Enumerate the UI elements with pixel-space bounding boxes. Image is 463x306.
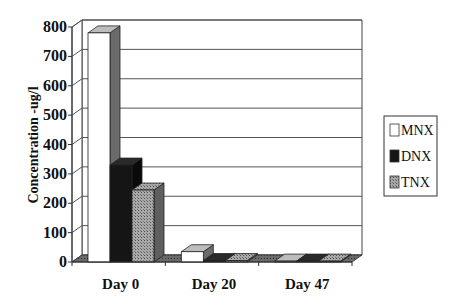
y-tick-label: 200 [43, 194, 67, 211]
y-axis-ticks: 0100200300400500600700800 [43, 18, 72, 270]
bar-front [88, 33, 110, 262]
legend-swatch-tnx [390, 176, 399, 188]
y-tick-label: 300 [43, 165, 67, 182]
bar-chart: 0100200300400500600700800 Day 0Day 20Day… [0, 0, 463, 306]
bar-front [132, 190, 154, 262]
y-tick-label: 800 [43, 18, 67, 35]
x-category-label: Day 47 [285, 276, 330, 292]
x-axis-labels: Day 0Day 20Day 47 [102, 276, 330, 292]
legend-label-tnx: TNX [401, 175, 430, 190]
x-category-label: Day 0 [102, 276, 139, 292]
y-tick-label: 500 [43, 106, 67, 123]
bar-side [154, 183, 164, 262]
legend-label-dnx: DNX [401, 149, 431, 164]
y-axis-label: Concentration -ug/l [26, 86, 41, 203]
legend-label-mnx: MNX [401, 123, 434, 138]
bar-tnx-day-0 [132, 183, 164, 262]
y-tick-label: 700 [43, 47, 67, 64]
y-tick-label: 100 [43, 224, 67, 241]
bar-front [110, 165, 132, 262]
legend-swatch-dnx [390, 150, 399, 162]
y-tick-label: 0 [59, 253, 67, 270]
legend-swatch-mnx [390, 124, 399, 136]
legend: MNXDNXTNX [384, 116, 437, 196]
y-tick-label: 600 [43, 77, 67, 94]
bar-front [181, 252, 203, 262]
y-tick-label: 400 [43, 136, 67, 153]
x-category-label: Day 20 [192, 276, 237, 292]
